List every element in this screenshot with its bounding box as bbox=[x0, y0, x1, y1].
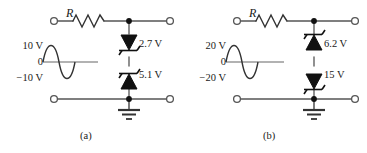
circuit-caption-b: (b) bbox=[263, 131, 275, 142]
node-dot-bottom bbox=[311, 96, 317, 102]
source-zero-label: 0 bbox=[186, 57, 226, 68]
terminal-top-right bbox=[352, 18, 359, 25]
source-waveform bbox=[226, 46, 284, 79]
ground-symbol bbox=[303, 110, 325, 119]
circuit-caption-a: (a) bbox=[80, 131, 92, 142]
source-peak-positive-label: 10 V bbox=[5, 41, 43, 52]
source-zero-label: 0 bbox=[5, 57, 43, 68]
source-peak-negative-label: −10 V bbox=[0, 73, 43, 84]
node-dot-top bbox=[126, 18, 132, 24]
resistor-R bbox=[73, 15, 104, 27]
ground-symbol bbox=[118, 110, 140, 119]
resistor-label: R bbox=[249, 7, 256, 19]
zener-bottom-voltage-label: 5.1 V bbox=[139, 70, 162, 81]
node-dot-top bbox=[311, 18, 317, 24]
source-peak-positive-label: 20 V bbox=[186, 41, 226, 52]
terminal-bottom-left bbox=[234, 96, 241, 103]
terminal-bottom-right bbox=[167, 96, 174, 103]
circuit-diagram-b: R 6.2 V 15 V 20 V 0 −20 V (b) bbox=[183, 0, 366, 153]
node-dot-bottom bbox=[126, 96, 132, 102]
terminal-top-left bbox=[234, 18, 241, 25]
zener-top-voltage-label: 2.7 V bbox=[139, 39, 162, 50]
terminal-top-left bbox=[51, 18, 58, 25]
resistor-label: R bbox=[66, 7, 73, 19]
source-waveform bbox=[43, 46, 98, 79]
circuit-figure: R 2.7 V 5.1 V 10 V 0 −10 V (a) bbox=[0, 0, 367, 153]
zener-diode-bottom bbox=[119, 69, 140, 89]
resistor-R bbox=[256, 15, 287, 27]
zener-top-voltage-label: 6.2 V bbox=[324, 39, 347, 50]
terminal-bottom-right bbox=[352, 96, 359, 103]
terminal-top-right bbox=[167, 18, 174, 25]
terminal-bottom-left bbox=[51, 96, 58, 103]
source-peak-negative-label: −20 V bbox=[183, 73, 226, 84]
zener-bottom-voltage-label: 15 V bbox=[324, 70, 345, 81]
zener-diode-top bbox=[119, 35, 140, 55]
circuit-diagram-a: R 2.7 V 5.1 V 10 V 0 −10 V (a) bbox=[0, 0, 183, 153]
